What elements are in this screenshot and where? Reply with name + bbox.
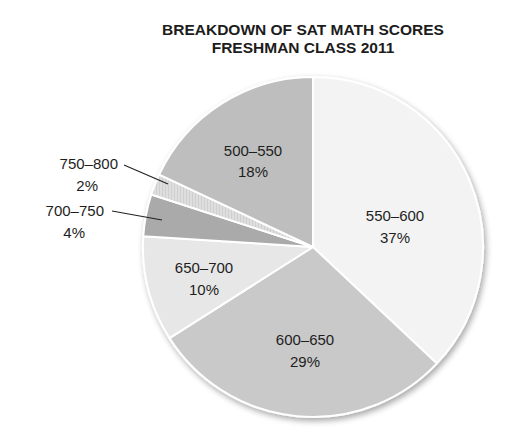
label-range-650-700: 650–700 bbox=[175, 259, 233, 276]
label-range-700-750: 700–750 bbox=[46, 202, 104, 219]
label-pct-700-750: 4% bbox=[63, 224, 85, 241]
label-pct-500-550: 18% bbox=[238, 163, 268, 180]
label-range-750-800: 750–800 bbox=[60, 155, 118, 172]
label-range-600-650: 600–650 bbox=[276, 331, 334, 348]
pie-chart: 500–550 18% 550–600 37% 650–700 10% 600–… bbox=[0, 0, 516, 443]
label-range-500-550: 500–550 bbox=[224, 142, 282, 159]
label-range-550-600: 550–600 bbox=[366, 207, 424, 224]
label-pct-650-700: 10% bbox=[189, 281, 219, 298]
label-pct-550-600: 37% bbox=[380, 229, 410, 246]
label-pct-750-800: 2% bbox=[76, 177, 98, 194]
label-pct-600-650: 29% bbox=[290, 353, 320, 370]
